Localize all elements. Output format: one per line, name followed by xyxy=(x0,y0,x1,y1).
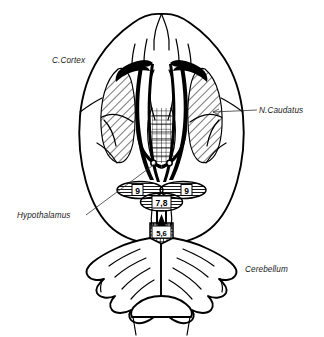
brain-diagram-figure: C.Cortex N.Caudatus Hypothalamus Cerebel… xyxy=(0,0,324,337)
label-hypothalamus: Hypothalamus xyxy=(17,211,71,220)
label-cortex: C.Cortex xyxy=(52,56,86,65)
region-number-lower: 5,6 xyxy=(156,229,167,238)
region-number-center: 7,8 xyxy=(156,198,168,208)
brain-diagram-svg: C.Cortex N.Caudatus Hypothalamus Cerebel… xyxy=(0,0,324,337)
region-number-left: 9 xyxy=(135,186,140,196)
label-caudatus: N.Caudatus xyxy=(259,106,303,115)
region-number-right: 9 xyxy=(184,186,189,196)
label-cerebellum: Cerebellum xyxy=(245,265,288,274)
cerebellum-outline xyxy=(87,238,237,323)
